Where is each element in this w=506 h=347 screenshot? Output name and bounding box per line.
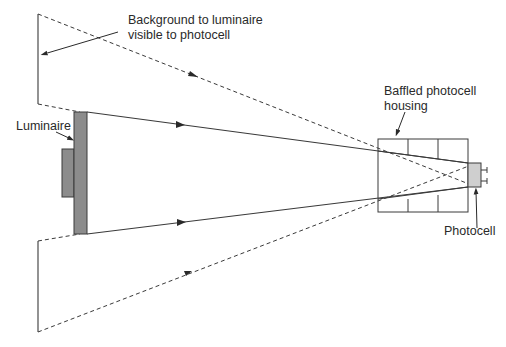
photocell-body xyxy=(468,163,481,187)
photocell-terminals xyxy=(481,167,487,184)
ray-arrowheads xyxy=(176,121,186,226)
luminaire-panel xyxy=(74,112,87,234)
housing-label-line2: housing xyxy=(384,99,428,113)
housing-rays xyxy=(378,151,468,199)
photocell-luminaire-diagram: Background to luminaire visible to photo… xyxy=(0,0,506,347)
housing-label-line1: Baffled photocell xyxy=(384,84,476,98)
baffled-housing xyxy=(378,139,468,212)
leader-lines xyxy=(44,32,477,228)
background-label-line2: visible to photocell xyxy=(128,28,230,42)
photocell xyxy=(468,163,487,187)
background-label-line1: Background to luminaire xyxy=(128,13,263,27)
photocell-label: Photocell xyxy=(444,224,495,238)
dashed-sight-lines xyxy=(38,14,474,332)
dashed-arrowheads xyxy=(184,71,198,276)
luminaire-label: Luminaire xyxy=(16,119,71,133)
luminaire-mount-box xyxy=(62,149,74,197)
solid-light-rays xyxy=(87,112,468,234)
